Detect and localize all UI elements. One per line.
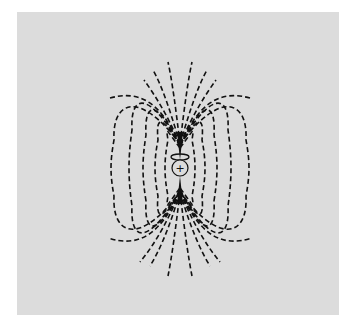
open-field-lines-bottom — [108, 192, 252, 276]
fan-line-top — [168, 62, 180, 144]
fan-line-top — [180, 62, 192, 144]
charge-assembly: + — [171, 132, 189, 204]
field-diagram: + — [0, 0, 352, 325]
charge-label: + — [175, 162, 184, 175]
